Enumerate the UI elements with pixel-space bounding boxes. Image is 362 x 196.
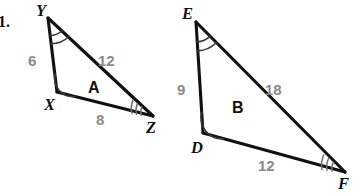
side-label-df: 12	[258, 158, 275, 173]
vertex-label-z: Z	[146, 120, 156, 137]
vertex-label-x: X	[44, 97, 55, 114]
side-label-ef: 18	[265, 82, 282, 97]
side-label-yx: 6	[28, 53, 36, 68]
triangle-b-side-ed	[196, 22, 203, 133]
vertex-label-y: Y	[36, 3, 46, 20]
geometry-figure: 1. Y X Z 6 12 8 A E D F 9 18 12 B	[0, 0, 362, 196]
triangle-name-a: A	[88, 80, 100, 96]
triangle-a-side-yx	[48, 18, 57, 92]
vertex-label-e: E	[182, 6, 193, 23]
side-label-ed: 9	[177, 82, 185, 97]
problem-number: 1.	[0, 14, 10, 30]
side-label-yz: 12	[98, 53, 115, 68]
triangle-name-b: B	[232, 100, 244, 116]
vertex-label-d: D	[191, 140, 203, 157]
side-label-xz: 8	[96, 112, 104, 127]
vertex-label-f: F	[338, 176, 349, 193]
